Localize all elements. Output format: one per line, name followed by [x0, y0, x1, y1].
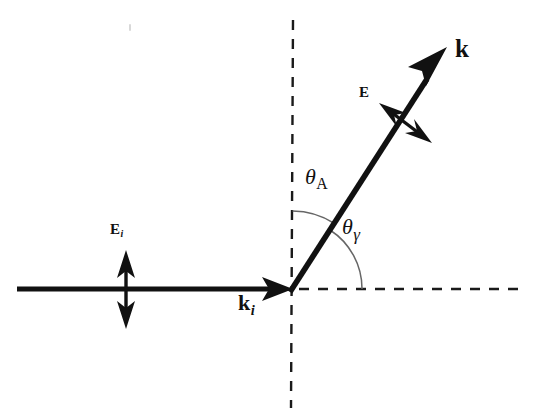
label-ki-subscript: i	[250, 302, 255, 318]
label-incident-wave-vector-ki: ki	[238, 292, 255, 317]
diagram-canvas	[0, 0, 534, 420]
label-Ei-subscript: i	[120, 228, 123, 239]
label-theta-gamma-symbol: θ	[342, 214, 353, 239]
label-wave-vector-k: k	[455, 36, 469, 61]
label-theta-a-symbol: θ	[305, 164, 316, 189]
label-theta-a-subscript: A	[316, 175, 328, 192]
label-angle-theta-a: θA	[305, 166, 328, 192]
k-arrowhead	[408, 47, 447, 86]
reference-axes	[291, 20, 526, 408]
label-Ei-symbol: E	[110, 221, 120, 237]
label-ki-symbol: k	[238, 290, 250, 315]
wave-vector-diagram: k E ki Ei θA θγ	[0, 0, 534, 420]
label-E-symbol: E	[359, 84, 369, 100]
scan-artifact-speck	[129, 24, 131, 31]
label-incident-polarization-Ei: Ei	[110, 222, 123, 239]
E-arrowhead-lower-right	[405, 119, 432, 143]
label-k-symbol: k	[455, 35, 469, 62]
theta-a-arc	[293, 211, 335, 224]
label-theta-gamma-subscript: γ	[353, 225, 360, 244]
label-angle-theta-gamma: θγ	[342, 216, 360, 243]
label-polarization-E: E	[359, 85, 369, 100]
vertical-normal-dashed-line	[291, 20, 293, 408]
